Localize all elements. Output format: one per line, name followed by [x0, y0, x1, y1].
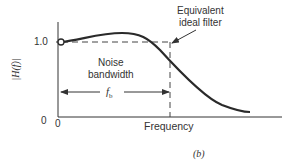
equivalent-filter-label: Equivalent ideal filter — [177, 5, 224, 29]
noise-bandwidth-diagram: 1.0 0 0 |H(f)| Frequency (b) Noise bandw… — [0, 0, 294, 164]
fb-label: fb — [104, 85, 115, 100]
figure-caption: (b) — [193, 148, 205, 159]
noise-bandwidth-label: Noise bandwidth — [88, 57, 134, 81]
fb-subscript: b — [109, 92, 113, 100]
y-tick-label-0: 0 — [41, 115, 47, 126]
origin-marker — [58, 39, 64, 45]
noise-bandwidth-line1: Noise — [88, 57, 134, 69]
y-tick-label-1: 1.0 — [34, 36, 48, 47]
equivalent-line2: ideal filter — [177, 17, 224, 29]
x-tick-label-0: 0 — [55, 118, 61, 129]
equivalent-line1: Equivalent — [177, 5, 224, 17]
x-axis-label: Frequency — [144, 120, 194, 132]
equivalent-filter-pointer — [172, 30, 196, 43]
y-axis-label: |H(f)| — [10, 58, 21, 80]
noise-bandwidth-line2: bandwidth — [88, 69, 134, 81]
plot-canvas — [0, 0, 294, 164]
